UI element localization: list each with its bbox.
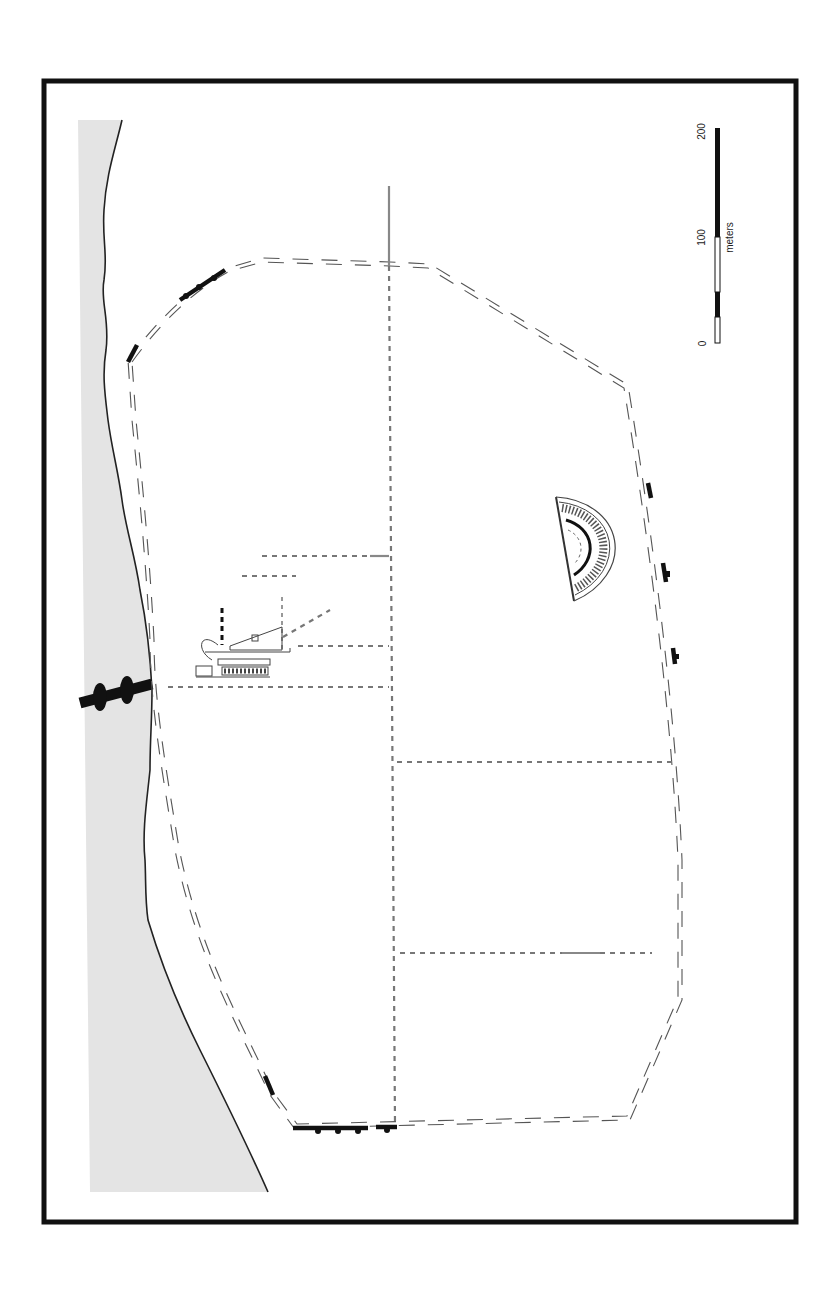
scale-label-200: 200 — [696, 123, 707, 140]
scale-label-100: 100 — [696, 229, 707, 246]
harbor-building-complex — [196, 597, 330, 677]
street-grid — [168, 186, 675, 1125]
excavated-wall-segments — [128, 270, 679, 1134]
scale-bar — [715, 128, 720, 343]
city-wall — [128, 258, 682, 1128]
scale-unit-label: meters — [724, 222, 735, 253]
theater — [556, 497, 615, 601]
site-plan-map — [0, 0, 839, 1289]
scale-label-0: 0 — [697, 341, 708, 347]
